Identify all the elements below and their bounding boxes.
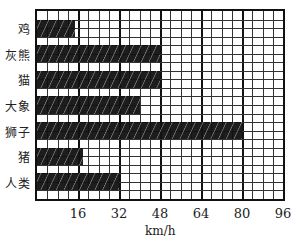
grid-line-horizontal	[37, 139, 283, 140]
x-tick-label: 80	[234, 206, 251, 221]
x-axis-label: km/h	[145, 224, 175, 237]
category-label: 猪	[18, 148, 31, 165]
x-tick-label: 32	[111, 206, 128, 221]
bar-chart-plot-area	[35, 9, 285, 201]
grid-line-horizontal	[37, 190, 283, 191]
bar-2	[37, 71, 160, 88]
x-tick-label: 64	[193, 206, 210, 221]
category-label: 人类	[5, 174, 31, 191]
grid-line-horizontal	[37, 37, 283, 38]
bar-1	[37, 45, 160, 62]
bar-3	[37, 96, 140, 113]
bar-4	[37, 122, 242, 139]
bar-6	[37, 173, 119, 190]
category-label: 大象	[5, 97, 31, 114]
bar-5	[37, 148, 83, 165]
grid-line-horizontal	[37, 114, 283, 115]
category-label: 狮子	[5, 123, 31, 140]
category-label: 猫	[18, 71, 31, 88]
x-tick-label: 16	[70, 206, 87, 221]
category-label: 灰熊	[5, 46, 31, 63]
x-tick-label: 96	[275, 206, 292, 221]
grid-line-horizontal	[37, 165, 283, 166]
bar-0	[37, 20, 75, 37]
grid-line-horizontal	[37, 88, 283, 89]
category-label: 鸡	[18, 20, 31, 37]
x-tick-label: 48	[152, 206, 169, 221]
grid-line-horizontal	[37, 62, 283, 63]
